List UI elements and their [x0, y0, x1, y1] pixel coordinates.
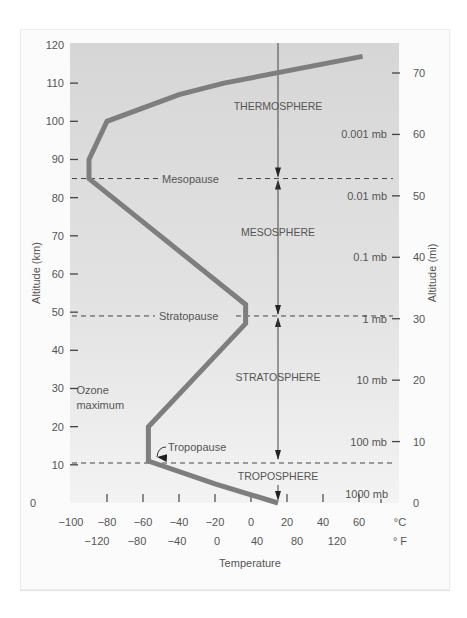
pressure-label: 1000 mb — [345, 488, 388, 500]
y-tick-label-km: 120 — [46, 39, 64, 51]
y-tick-label-mi: 20 — [413, 374, 425, 386]
pressure-label: 0.01 mb — [347, 190, 387, 202]
x-tick-label-c: 60 — [353, 516, 365, 528]
x-tick-label-c: −100 — [59, 516, 84, 528]
x-tick-label-f: 0 — [214, 535, 220, 547]
y-tick-label-km: 30 — [52, 382, 64, 394]
y-tick-label-km: 110 — [46, 77, 64, 89]
x-axis-label: Temperature — [219, 557, 281, 569]
y-axis-label-mi: Altitude (mi) — [426, 244, 438, 303]
x-tick-label-c: −60 — [134, 516, 153, 528]
pressure-label: 0.1 mb — [353, 251, 387, 263]
y-tick-label-mi: 70 — [413, 67, 425, 79]
x-tick-label-f: 40 — [251, 535, 263, 547]
x-tick-label-f: −40 — [168, 535, 187, 547]
atmosphere-temperature-chart: 0102030405060708090100110120 01020304050… — [0, 0, 467, 618]
mesopause-label: Mesopause — [162, 173, 219, 185]
x-tick-label-f: 80 — [291, 535, 303, 547]
stratosphere-label: STRATOSPHERE — [236, 371, 321, 383]
thermosphere-label: THERMOSPHERE — [234, 100, 323, 112]
x-tick-label-f: −120 — [85, 535, 110, 547]
x-tick-label-c: −20 — [206, 516, 225, 528]
mesosphere-label: MESOSPHERE — [241, 226, 315, 238]
y-tick-label-mi: 50 — [413, 190, 425, 202]
x-tick-label-c: 0 — [248, 516, 254, 528]
tropopause-label: Tropopause — [168, 441, 226, 453]
y-tick-label-mi: 10 — [413, 436, 425, 448]
x-tick-label-f: 120 — [328, 535, 346, 547]
y-tick-label-km: 100 — [46, 115, 64, 127]
y-tick-label-mi: 0 — [413, 497, 419, 509]
pressure-label: 100 mb — [350, 436, 387, 448]
y-tick-label-km: 90 — [52, 153, 64, 165]
y-tick-label-km: 10 — [52, 459, 64, 471]
y-tick-label-km: 70 — [52, 230, 64, 242]
x-tick-label-c: 20 — [281, 516, 293, 528]
y-tick-label-mi: 40 — [413, 251, 425, 263]
y-tick-label-km: 80 — [52, 192, 64, 204]
y-tick-label-km: 50 — [52, 306, 64, 318]
pressure-label: 0.001 mb — [341, 128, 387, 140]
ozone-maximum-annotation: maximum — [76, 399, 124, 411]
stratopause-label: Stratopause — [159, 310, 218, 322]
pressure-label: 10 mb — [356, 374, 387, 386]
plot-area — [70, 43, 399, 503]
x-tick-label-c: −80 — [98, 516, 117, 528]
x-tick-label-c: 40 — [317, 516, 329, 528]
x-tick-label-f: −80 — [128, 535, 147, 547]
x-unit-c: °C — [394, 516, 406, 528]
pressure-label: 1 mb — [363, 313, 387, 325]
x-unit-f: ° F — [393, 535, 407, 547]
y-tick-label-km: 0 — [30, 497, 36, 509]
y-tick-label-km: 40 — [52, 344, 64, 356]
y-tick-label-km: 20 — [52, 421, 64, 433]
x-tick-label-c: −40 — [170, 516, 189, 528]
y-tick-label-mi: 60 — [413, 128, 425, 140]
ozone-maximum-annotation: Ozone — [76, 384, 108, 396]
y-tick-label-mi: 30 — [413, 313, 425, 325]
y-axis-label-km: Altitude (km) — [30, 242, 42, 304]
y-tick-label-km: 60 — [52, 268, 64, 280]
troposphere-label: TROPOSPHERE — [238, 470, 319, 482]
